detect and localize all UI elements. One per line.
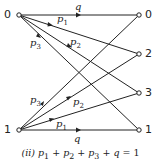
diagram-caption: (ii) p1 + p2 + p3 + q = 1 xyxy=(0,147,161,161)
plus-sign: + xyxy=(99,147,113,158)
subscript: 3 xyxy=(36,43,40,51)
output-node-3 xyxy=(137,91,141,95)
plus-sign: + xyxy=(74,147,88,158)
subscript: 2 xyxy=(79,102,83,110)
arrow-icon xyxy=(76,128,81,133)
edge-label-q-bottom: q xyxy=(74,134,80,144)
channel-diagram: 0 1 0 2 3 1 q p1 p2 p3 q p1 p2 p3 (ii) p… xyxy=(0,0,161,163)
edge-label-p2-bottom: p2 xyxy=(73,97,84,110)
output-label-2: 2 xyxy=(145,48,152,59)
input-node-1 xyxy=(17,128,21,132)
arrow-icon xyxy=(49,118,54,122)
edge-1-to-2 xyxy=(19,54,139,130)
edge-label-q-top: q xyxy=(75,2,81,12)
output-node-0 xyxy=(137,13,141,17)
plus-sign: + xyxy=(49,147,63,158)
output-label-3: 3 xyxy=(145,87,152,98)
edge-label-p1-bottom: p1 xyxy=(56,119,67,132)
edge-0-to-3 xyxy=(19,15,139,93)
edge-label-p2-top: p2 xyxy=(70,37,81,50)
diagram-graphics xyxy=(0,0,161,163)
edge-label-p3-bottom: p3 xyxy=(30,95,41,108)
output-node-1 xyxy=(137,128,141,132)
edge-label-p3-top: p3 xyxy=(30,38,41,51)
subscript: 1 xyxy=(63,19,67,27)
input-label-1: 1 xyxy=(4,124,11,135)
input-label-0: 0 xyxy=(4,9,11,20)
edge-label-p1-top: p1 xyxy=(57,14,68,27)
arrow-icon xyxy=(76,13,81,18)
output-node-2 xyxy=(137,52,141,56)
subscript: 1 xyxy=(62,124,66,132)
subscript: 2 xyxy=(76,42,80,50)
output-label-1: 1 xyxy=(145,124,152,135)
caption-prefix: (ii) xyxy=(21,147,35,158)
subscript: 3 xyxy=(36,100,40,108)
output-label-0: 0 xyxy=(145,9,152,20)
input-node-0 xyxy=(17,13,21,17)
equals-one: = 1 xyxy=(119,147,139,158)
